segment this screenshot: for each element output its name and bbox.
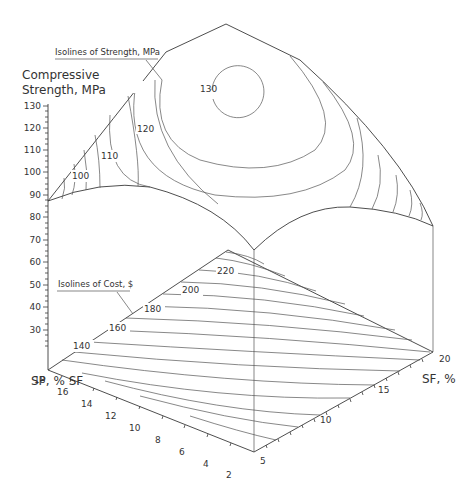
cost-label-140: 140 <box>73 341 90 351</box>
strength-label-130: 130 <box>200 84 217 94</box>
strength-surface: 130 120 110 100 Isolines of Strength, MP… <box>48 24 433 250</box>
sp-tick-4: 4 <box>203 459 209 469</box>
z-axis-title-line1: Compressive <box>22 68 99 82</box>
sp-tick-10: 10 <box>129 423 141 433</box>
sp-tick-14: 14 <box>81 399 93 409</box>
cost-label-200: 200 <box>182 285 199 295</box>
z-tick-50: 50 <box>30 280 42 290</box>
sf-tick-10: 10 <box>320 415 332 425</box>
z-tick-110: 110 <box>24 145 41 155</box>
cost-label-160: 160 <box>109 323 126 333</box>
sf-tick-5: 5 <box>260 456 266 466</box>
z-tick-40: 40 <box>30 302 42 312</box>
sf-axis-title: SF, % <box>422 372 456 386</box>
strength-label-100: 100 <box>72 171 89 181</box>
strength-label-120: 120 <box>137 124 154 134</box>
base-axes: 18 16 14 12 10 8 6 4 2 SP, % SF SP, % SF <box>31 226 456 480</box>
cost-label-180: 180 <box>144 304 161 314</box>
sp-tick-12: 12 <box>105 411 116 421</box>
z-tick-30: 30 <box>30 325 42 335</box>
sp-tick-2: 2 <box>226 470 232 480</box>
z-tick-70: 70 <box>30 235 42 245</box>
sf-tick-15: 15 <box>378 385 389 395</box>
cost-label-220: 220 <box>217 266 234 276</box>
sp-tick-16: 16 <box>57 387 69 397</box>
z-axis: 130 120 110 100 90 80 70 60 50 40 30 Com… <box>22 68 106 370</box>
strength-isolines-annotation: Isolines of Strength, MPa <box>55 47 160 57</box>
strength-label-110: 110 <box>101 151 118 161</box>
z-tick-130: 130 <box>24 101 41 111</box>
sp-axis-title-visible: SP, % SF <box>31 374 83 388</box>
z-axis-title-line2: Strength, MPa <box>22 83 106 97</box>
cost-isolines-annotation: Isolines of Cost, $ <box>58 279 133 289</box>
z-tick-100: 100 <box>24 167 41 177</box>
sp-tick-6: 6 <box>179 447 185 457</box>
z-tick-90: 90 <box>30 190 42 200</box>
z-tick-80: 80 <box>30 212 42 222</box>
z-tick-120: 120 <box>24 123 41 133</box>
sp-tick-8: 8 <box>155 435 161 445</box>
z-tick-60: 60 <box>30 257 42 267</box>
sf-tick-20: 20 <box>439 354 451 364</box>
response-surface-chart: 130 120 110 100 90 80 70 60 50 40 30 Com… <box>0 0 471 480</box>
